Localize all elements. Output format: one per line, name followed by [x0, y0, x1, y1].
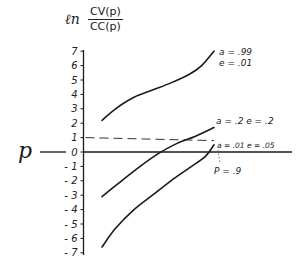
fraction: CV(p) CC(p): [88, 5, 123, 34]
y-tick-label: 1: [71, 132, 77, 143]
y-tick-label: - 3: [64, 190, 77, 201]
y-ticks: 76543210- 1- 2- 3- 4- 5- 6- 7: [64, 46, 83, 259]
p-marker-label: P = .9: [214, 166, 242, 176]
ln-symbol: ℓn: [65, 11, 80, 28]
series-curve-2: [102, 145, 214, 247]
dashed-reference-line: [86, 138, 215, 141]
y-tick-label: - 6: [64, 233, 77, 244]
series-labels: a = .99e = .01a = .2 e = .2a = .01 e = .…: [216, 47, 275, 150]
y-tick-label: - 4: [64, 204, 77, 215]
y-tick-label: - 2: [64, 175, 77, 186]
series-curve-0: [102, 51, 214, 120]
series-label: a = .2 e = .2: [216, 116, 274, 126]
y-tick-label: 3: [71, 103, 77, 114]
y-tick-label: - 5: [64, 219, 77, 230]
y-tick-label: 0: [71, 147, 77, 158]
y-tick-label: - 7: [64, 247, 78, 258]
axes: [40, 50, 292, 255]
denominator: CC(p): [88, 20, 123, 34]
y-tick-label: 2: [71, 118, 77, 129]
x-axis-label: p: [18, 138, 32, 163]
curves: [102, 51, 214, 247]
y-axis-label: ℓn CV(p) CC(p): [30, 3, 160, 41]
y-tick-label: 5: [71, 75, 77, 86]
y-tick-label: 4: [71, 89, 77, 100]
y-tick-label: 6: [71, 60, 77, 71]
series-label: e = .01: [219, 58, 252, 68]
numerator: CV(p): [88, 5, 123, 20]
y-tick-label: - 1: [64, 161, 77, 172]
series-label: a = .99: [219, 47, 252, 57]
y-tick-label: 7: [71, 46, 78, 57]
series-label: a = .01 e = .05: [217, 141, 275, 150]
